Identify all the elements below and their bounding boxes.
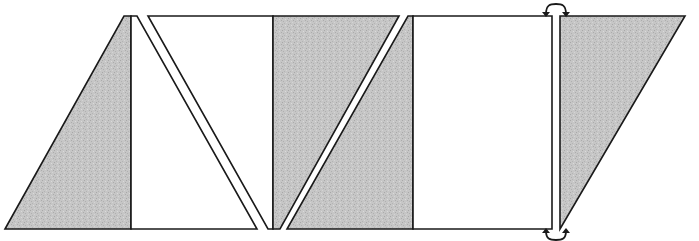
piece-1-right-triangle <box>5 16 131 229</box>
piece-7-right-triangle <box>560 16 685 229</box>
bottom-swap-arrow-icon <box>542 228 570 240</box>
piece-6-rectangle <box>413 16 552 229</box>
top-swap-arrow-icon <box>542 4 570 17</box>
parallelogram-dissection-diagram <box>0 0 699 241</box>
pieces-layer <box>5 16 685 229</box>
